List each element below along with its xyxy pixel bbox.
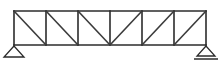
right-support-triangle-icon bbox=[197, 46, 215, 56]
left-support-pinned bbox=[4, 46, 24, 57]
diagonal-member-3 bbox=[78, 11, 110, 45]
vertical-member-group bbox=[14, 11, 206, 45]
diagonal-member-1 bbox=[14, 11, 46, 45]
truss-diagram-figure bbox=[0, 0, 220, 63]
truss-diagram-canvas bbox=[0, 0, 220, 63]
right-support-roller bbox=[194, 46, 218, 59]
left-support-triangle-icon bbox=[4, 46, 24, 57]
diagonal-member-6 bbox=[174, 11, 206, 45]
diagonal-member-4 bbox=[110, 11, 142, 45]
diagonal-member-2 bbox=[46, 11, 78, 45]
diagonal-member-5 bbox=[142, 11, 174, 45]
